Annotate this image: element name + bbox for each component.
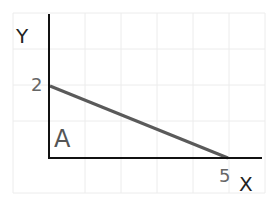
- region-label: A: [54, 127, 70, 151]
- y-tick-label: 2: [31, 76, 42, 94]
- x-axis-label: X: [239, 174, 253, 194]
- y-axis-label: Y: [16, 26, 28, 46]
- x-tick-label: 5: [219, 167, 230, 185]
- chart-canvas: [0, 0, 276, 210]
- data-line: [50, 86, 228, 158]
